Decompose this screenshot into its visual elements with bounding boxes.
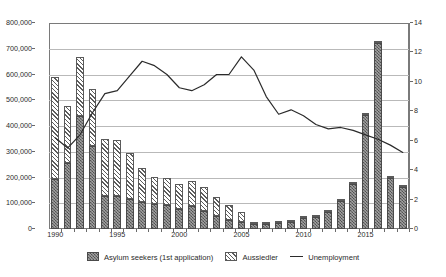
unemployment-line-layer [0, 0, 446, 277]
chart-container: 0100,000200,000300,000400,000500,000600,… [0, 0, 446, 277]
legend-label-unemployment: Unemployment [308, 253, 359, 263]
bar-checker-swatch-icon [87, 252, 99, 261]
legend-label-aussiedler: Aussiedler [242, 253, 277, 263]
legend-item-asylum: Asylum seekers (1st application) [87, 252, 213, 263]
legend-label-asylum: Asylum seekers (1st application) [104, 253, 213, 263]
unemployment-line [55, 57, 403, 153]
line-swatch-icon [290, 256, 303, 257]
chart-legend: Asylum seekers (1st application) Aussied… [0, 252, 446, 263]
legend-item-aussiedler: Aussiedler [225, 252, 278, 263]
legend-item-unemployment: Unemployment [290, 253, 359, 263]
bar-hatch-swatch-icon [225, 252, 237, 261]
